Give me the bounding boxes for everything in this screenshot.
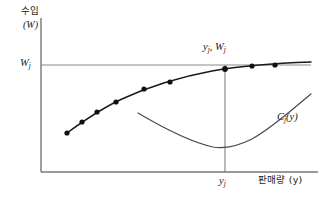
y-tick-subscript: j bbox=[29, 61, 31, 70]
x-tick-label-yj: yj bbox=[219, 175, 226, 186]
y-tick-label-wj: Wj bbox=[20, 57, 31, 68]
chart-plot-area bbox=[0, 0, 329, 202]
data-point bbox=[141, 86, 146, 91]
data-point bbox=[113, 99, 118, 104]
y-tick-base: W bbox=[20, 57, 29, 68]
cost-label-subscript: j bbox=[284, 115, 286, 124]
optimum-w-subscript: j bbox=[224, 45, 226, 54]
data-point bbox=[94, 109, 99, 114]
cost-curve-label: Cj(y) bbox=[277, 111, 298, 122]
x-tick-subscript: j bbox=[224, 179, 226, 188]
x-tick-base: y bbox=[219, 175, 224, 186]
optimum-y-base: y bbox=[203, 41, 208, 52]
x-axis-label: 판매량 (y) bbox=[258, 175, 302, 185]
data-point bbox=[249, 63, 254, 68]
revenue-data-markers bbox=[64, 62, 277, 135]
data-point bbox=[79, 119, 84, 124]
optimum-separator: , W bbox=[210, 41, 224, 52]
cost-label-base: C bbox=[277, 111, 284, 122]
optimum-point-annotation: yj, Wj bbox=[203, 41, 226, 52]
y-axis-label-unit: (W) bbox=[23, 20, 38, 31]
data-point-optimum bbox=[222, 66, 228, 72]
revenue-curve bbox=[67, 62, 311, 133]
optimum-y-subscript: j bbox=[208, 45, 210, 54]
revenue-cost-chart: 수입 (W) Wj yj 판매량 (y) yj, Wj Cj(y) bbox=[0, 0, 329, 202]
data-point bbox=[272, 62, 277, 67]
y-axis-label-name: 수입 bbox=[21, 6, 39, 16]
data-point bbox=[167, 79, 172, 84]
data-point bbox=[64, 130, 69, 135]
cost-label-arg: (y) bbox=[286, 111, 298, 122]
